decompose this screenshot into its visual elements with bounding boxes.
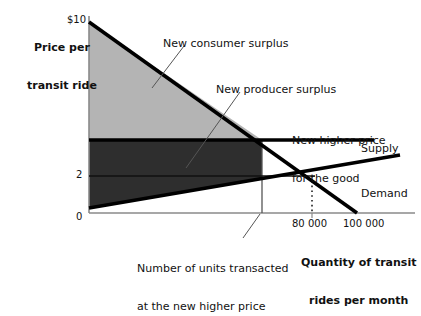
annotation-new-producer-surplus: New producer surplus bbox=[216, 84, 336, 97]
x-axis-title-line1: Quantity of transit bbox=[301, 257, 416, 270]
y-axis-title: Price per transit ride bbox=[27, 17, 97, 118]
leader-line-quantity-note bbox=[243, 214, 260, 238]
y-tick-10: $10 bbox=[67, 14, 86, 26]
x-tick-label-80000: 80 000 bbox=[292, 218, 327, 230]
x-axis-title-line2: rides per month bbox=[301, 295, 416, 308]
curve-label-demand: Demand bbox=[361, 188, 408, 201]
x-axis-title: Quantity of transit rides per month bbox=[301, 232, 416, 316]
region-new-producer-surplus bbox=[89, 140, 262, 208]
y-tick-2: 2 bbox=[76, 169, 82, 181]
new-higher-price-line2: for the good bbox=[292, 173, 386, 186]
quantity-note-line1: Number of units transacted bbox=[137, 263, 288, 276]
annotation-quantity-transacted: Number of units transacted at the new hi… bbox=[137, 238, 288, 316]
y-axis-title-line1: Price per bbox=[27, 42, 97, 55]
quantity-note-line2: at the new higher price bbox=[137, 301, 288, 314]
x-tick-label-100000: 100 000 bbox=[343, 218, 384, 230]
y-tick-0: 0 bbox=[76, 211, 82, 223]
annotation-new-consumer-surplus: New consumer surplus bbox=[163, 38, 288, 51]
y-axis-title-line2: transit ride bbox=[27, 80, 97, 93]
curve-label-supply: Supply bbox=[361, 143, 399, 156]
